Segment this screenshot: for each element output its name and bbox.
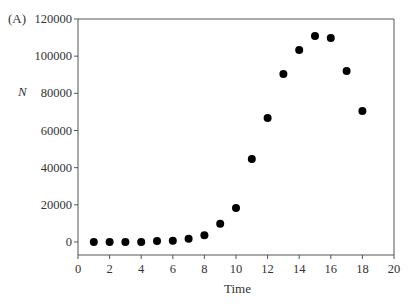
data-point <box>264 114 272 122</box>
data-point <box>200 231 208 239</box>
data-point <box>106 238 114 246</box>
data-points <box>90 32 367 246</box>
x-tick-label: 2 <box>106 262 112 276</box>
y-tick-label: 0 <box>66 235 72 249</box>
data-point <box>248 155 256 163</box>
panel-label: (A) <box>8 11 26 26</box>
data-point <box>327 34 335 42</box>
data-point <box>153 237 161 245</box>
scatter-chart: (A) N Time 02000040000600008000010000012… <box>0 0 412 307</box>
data-point <box>169 237 177 245</box>
x-tick-label: 0 <box>75 262 81 276</box>
axes <box>78 19 394 255</box>
x-tick-label: 20 <box>388 262 401 276</box>
y-axis-ticks: 020000400006000080000100000120000 <box>35 12 79 249</box>
y-tick-label: 20000 <box>41 198 72 212</box>
x-tick-label: 10 <box>230 262 243 276</box>
y-axis-title: N <box>17 84 28 99</box>
data-point <box>216 220 224 228</box>
data-point <box>358 107 366 115</box>
x-tick-label: 12 <box>261 262 274 276</box>
data-point <box>232 204 240 212</box>
data-point <box>343 67 351 75</box>
y-tick-label: 100000 <box>35 49 73 63</box>
x-tick-label: 4 <box>138 262 145 276</box>
x-tick-label: 8 <box>201 262 207 276</box>
x-axis-ticks: 02468101214161820 <box>75 255 400 276</box>
x-axis-title: Time <box>224 281 251 296</box>
y-tick-label: 80000 <box>41 86 72 100</box>
data-point <box>279 70 287 78</box>
x-tick-label: 14 <box>293 262 306 276</box>
data-point <box>90 238 98 246</box>
x-tick-label: 6 <box>170 262 176 276</box>
data-point <box>295 46 303 54</box>
data-point <box>185 235 193 243</box>
x-tick-label: 16 <box>325 262 338 276</box>
x-tick-label: 18 <box>356 262 369 276</box>
y-tick-label: 120000 <box>35 12 73 26</box>
y-tick-label: 60000 <box>41 124 72 138</box>
y-tick-label: 40000 <box>41 161 72 175</box>
data-point <box>311 32 319 40</box>
data-point <box>137 238 145 246</box>
data-point <box>121 238 129 246</box>
